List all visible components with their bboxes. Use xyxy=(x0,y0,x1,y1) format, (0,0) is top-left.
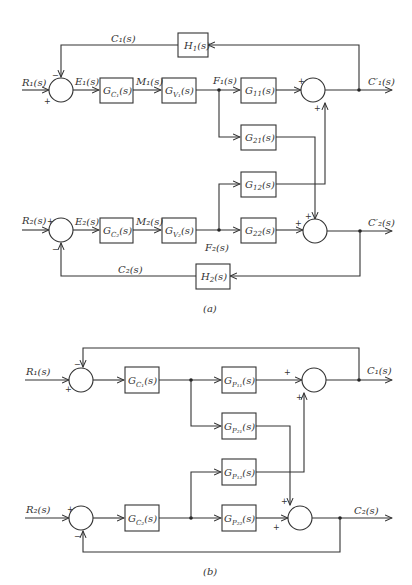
sign-plus: + xyxy=(65,385,72,394)
summing-junction-1 xyxy=(49,78,73,102)
g21-out-line xyxy=(276,137,315,219)
label-c1-prime: C′₁(s) xyxy=(368,76,395,87)
label-c1: C₁(s) xyxy=(111,33,136,44)
sign-minus: − xyxy=(52,71,59,80)
label-c2: C₂(s) xyxy=(354,505,379,516)
summing-junction-out-2 xyxy=(303,219,327,243)
label-f1: F₁(s) xyxy=(212,75,237,86)
summing-junction-1 xyxy=(69,368,93,392)
sign-plus: + xyxy=(273,523,280,532)
label-m2: M₂(s) xyxy=(135,216,163,227)
gp21-out-line xyxy=(256,426,290,505)
figure-a: R₁(s) E₁(s) M₁(s) F₁(s) C₁(s) C′₁(s) R₂(… xyxy=(21,33,395,314)
label-r1: R₁(s) xyxy=(21,77,47,88)
c1-feedback-line xyxy=(61,45,178,77)
to-gp12-line xyxy=(191,472,221,518)
label-f2: F₂(s) xyxy=(204,242,229,253)
f1-to-g21-line xyxy=(219,90,240,137)
figure-b: R₁(s) C₁(s) R₂(s) C₂(s) GC₁(s) GC₂(s) GP… xyxy=(25,348,392,577)
block-diagram: R₁(s) E₁(s) M₁(s) F₁(s) C₁(s) C′₁(s) R₂(… xyxy=(0,0,412,585)
label-e2: E₂(s) xyxy=(74,216,99,227)
f2-to-g12-line xyxy=(219,184,240,230)
sign-plus: + xyxy=(47,217,54,226)
label-r2: R₂(s) xyxy=(21,215,47,226)
label-c2-prime: C′₂(s) xyxy=(368,217,395,228)
sign-plus: + xyxy=(67,505,74,514)
label-m1: M₁(s) xyxy=(135,76,163,87)
sign-minus: − xyxy=(74,360,81,369)
caption-a: (a) xyxy=(203,303,217,314)
sign-minus: − xyxy=(52,245,59,254)
label-r2: R₂(s) xyxy=(25,504,51,515)
label-e1: E₁(s) xyxy=(74,76,99,87)
sign-minus: − xyxy=(74,532,81,541)
summing-junction-out-2 xyxy=(288,506,312,530)
label-r1: R₁(s) xyxy=(25,366,51,377)
sign-plus: + xyxy=(295,219,302,228)
sign-plus: + xyxy=(298,77,305,86)
sign-plus: + xyxy=(284,368,291,377)
sign-plus: + xyxy=(296,393,303,402)
summing-junction-out-1 xyxy=(302,368,326,392)
sign-plus: + xyxy=(44,97,51,106)
caption-b: (b) xyxy=(203,566,217,577)
gp12-out-line xyxy=(256,393,304,472)
g12-out-line xyxy=(276,103,325,184)
to-gp21-line xyxy=(191,380,221,426)
sign-plus: + xyxy=(281,497,288,506)
label-c2: C₂(s) xyxy=(118,264,143,275)
sign-plus: + xyxy=(305,212,312,221)
label-c1: C₁(s) xyxy=(367,365,392,376)
sign-plus: + xyxy=(314,104,321,113)
